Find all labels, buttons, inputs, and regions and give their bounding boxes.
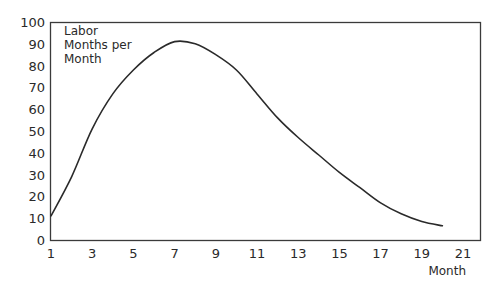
- plot-frame: [51, 23, 481, 241]
- y-axis-title: LaborMonths perMonth: [64, 24, 132, 66]
- x-axis-title: Month: [428, 264, 466, 278]
- y-tick-label: 60: [28, 102, 45, 117]
- y-tick-label: 10: [28, 211, 45, 226]
- x-axis-tick-labels: 13579111315171921: [47, 246, 471, 261]
- y-axis-title-line: Labor: [64, 24, 98, 38]
- x-tick-label: 9: [212, 246, 220, 261]
- y-tick-label: 70: [28, 80, 45, 95]
- y-tick-label: 20: [28, 189, 45, 204]
- y-tick-label: 40: [28, 146, 45, 161]
- series-line: [51, 41, 442, 226]
- x-tick-label: 15: [331, 246, 348, 261]
- y-tick-label: 100: [20, 15, 45, 30]
- y-tick-label: 80: [28, 59, 45, 74]
- x-tick-label: 1: [47, 246, 55, 261]
- x-tick-label: 3: [88, 246, 96, 261]
- y-axis-tick-labels: 0102030405060708090100: [20, 15, 45, 248]
- y-tick-label: 90: [28, 37, 45, 52]
- y-tick-label: 0: [37, 233, 45, 248]
- line-chart: 0102030405060708090100 13579111315171921…: [0, 0, 504, 288]
- x-tick-label: 11: [249, 246, 266, 261]
- x-tick-label: 5: [129, 246, 137, 261]
- x-tick-label: 17: [372, 246, 389, 261]
- y-axis-title-line: Month: [64, 52, 102, 66]
- x-tick-label: 19: [414, 246, 431, 261]
- y-tick-label: 30: [28, 168, 45, 183]
- y-axis-title-line: Months per: [64, 38, 132, 52]
- x-tick-label: 13: [290, 246, 307, 261]
- x-tick-label: 7: [170, 246, 178, 261]
- y-tick-label: 50: [28, 124, 45, 139]
- x-tick-label: 21: [455, 246, 472, 261]
